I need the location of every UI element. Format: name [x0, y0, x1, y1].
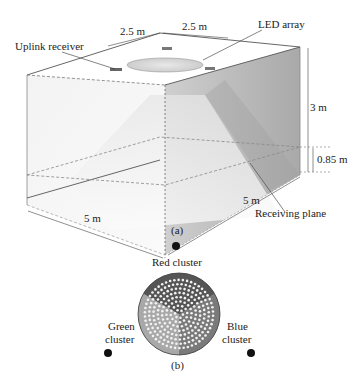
blue-cluster-marker	[247, 349, 255, 357]
label-red-cluster: Red cluster	[152, 256, 202, 268]
label-plane-height-dim: 0.85 m	[317, 153, 348, 165]
led-cluster-disc	[138, 273, 220, 355]
caption-b: (b)	[171, 359, 184, 372]
uplink-receiver-right	[205, 67, 215, 70]
label-top-right-dim: 2.5 m	[182, 20, 208, 32]
label-receiving-plane: Receiving plane	[255, 207, 326, 219]
red-cluster-marker	[172, 242, 180, 250]
label-green-cluster-1: Green	[108, 320, 135, 332]
label-blue-cluster-1: Blue	[227, 320, 248, 332]
label-depth-dim: 5 m	[243, 194, 260, 206]
caption-a: (a)	[171, 224, 184, 237]
label-front-width-dim: 5 m	[84, 212, 101, 224]
dim-top-right	[163, 33, 228, 38]
uplink-receiver-left	[110, 68, 122, 71]
uplink-leader	[62, 52, 115, 69]
led-array-disc	[127, 58, 203, 72]
label-top-left-dim: 2.5 m	[120, 25, 146, 37]
label-uplink-receiver: Uplink receiver	[15, 40, 84, 52]
label-green-cluster-2: cluster	[105, 333, 135, 345]
label-led-array: LED array	[258, 18, 305, 30]
led-leader	[203, 30, 262, 60]
green-cluster-marker	[104, 349, 112, 357]
label-blue-cluster-2: cluster	[222, 333, 252, 345]
vlc-room-diagram: 2.5 m 2.5 m Uplink receiver LED array 3 …	[0, 0, 363, 392]
label-height-dim: 3 m	[310, 101, 327, 113]
uplink-receiver-back	[162, 47, 172, 50]
